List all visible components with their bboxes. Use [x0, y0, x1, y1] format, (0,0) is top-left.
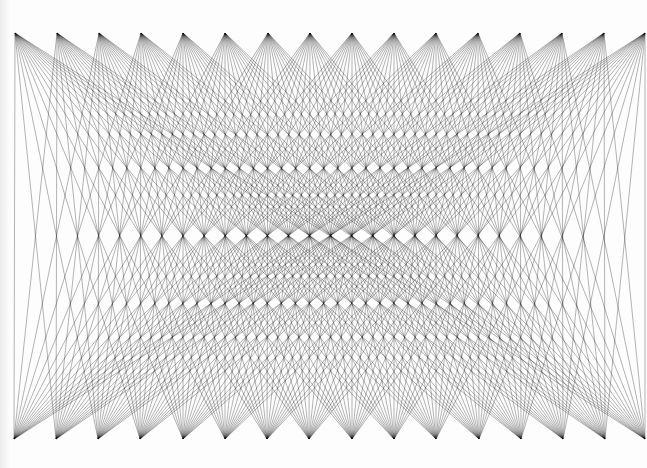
string-art-lines: [0, 0, 647, 468]
string-art-canvas: [0, 0, 647, 468]
paper-edge-shadow: [0, 0, 10, 468]
